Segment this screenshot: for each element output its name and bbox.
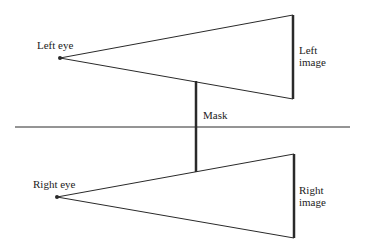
right-image-label-line1: Right xyxy=(299,184,323,196)
left-eye-point xyxy=(58,56,62,60)
left-cone-lower-ray xyxy=(60,58,293,99)
right-cone-lower-ray xyxy=(57,197,294,238)
right-image-label-line2: image xyxy=(299,196,326,208)
right-eye-point xyxy=(55,195,59,199)
right-cone-upper-ray xyxy=(57,154,294,197)
mask-label: Mask xyxy=(203,109,228,121)
left-image-label-line1: Left xyxy=(299,44,317,56)
right-eye-cone xyxy=(55,154,294,238)
right-eye-label: Right eye xyxy=(33,178,76,190)
left-image-label-line2: image xyxy=(299,56,326,68)
left-eye-label: Left eye xyxy=(37,39,73,51)
stereo-mask-diagram: Left eye Right eye Left image Right imag… xyxy=(0,0,365,251)
left-eye-cone xyxy=(58,15,293,99)
left-cone-upper-ray xyxy=(60,15,293,58)
